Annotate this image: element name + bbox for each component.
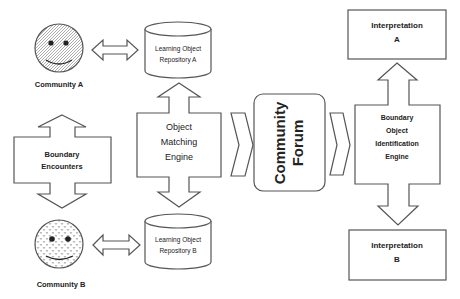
- eye-icon: [63, 40, 68, 45]
- interpretation-b-line2: B: [394, 255, 400, 264]
- boie-line3: Identification: [375, 140, 419, 147]
- interpretation-a-line2: A: [394, 35, 400, 44]
- chevron-right-icon: [231, 113, 253, 176]
- smiley-face-icon: [35, 24, 83, 72]
- ome-line1: Object: [166, 122, 193, 132]
- boundary-object-identification-engine: Boundary Object Identification Engine: [355, 63, 440, 225]
- repository-a: Learning Object Repository A: [145, 22, 211, 78]
- interpretation-a: Interpretation A: [348, 10, 446, 59]
- boie-line4: Engine: [385, 153, 408, 161]
- community-b: Community B: [35, 220, 86, 289]
- smiley-face-icon: [35, 220, 83, 268]
- chevron-right-icon: [330, 113, 350, 175]
- community-forum-line2: Forum: [289, 120, 306, 167]
- interpretation-a-line1: Interpretation: [371, 21, 423, 30]
- community-forum-line1: Community: [271, 101, 288, 184]
- eye-icon: [49, 236, 55, 242]
- diagram-canvas: Community A Learning Object Repository A…: [0, 0, 460, 299]
- double-arrow-b: [93, 235, 140, 255]
- ome-line3: Engine: [165, 152, 193, 162]
- community-a-label: Community A: [35, 80, 84, 89]
- repository-b: Learning Object Repository B: [145, 214, 211, 269]
- interpretation-b-line1: Interpretation: [371, 241, 423, 250]
- eye-icon: [48, 40, 53, 45]
- repository-a-line1: Learning Object: [155, 45, 201, 53]
- boundary-encounters-line2: Encounters: [41, 162, 82, 171]
- community-a: Community A: [35, 24, 84, 89]
- object-matching-engine: Object Matching Engine: [137, 83, 221, 207]
- boie-line2: Object: [386, 127, 408, 135]
- double-arrow-a: [92, 40, 138, 60]
- boundary-encounters-line1: Boundary: [44, 150, 80, 159]
- interpretation-b: Interpretation B: [349, 230, 446, 280]
- boundary-encounters: Boundary Encounters: [14, 115, 111, 208]
- eye-icon: [65, 236, 71, 242]
- repository-b-line1: Learning Object: [155, 236, 201, 244]
- community-b-label: Community B: [37, 280, 86, 289]
- community-forum: Community Forum: [254, 94, 325, 191]
- boie-line1: Boundary: [381, 114, 414, 122]
- repository-b-line2: Repository B: [159, 247, 196, 255]
- repository-a-line2: Repository A: [160, 56, 198, 64]
- ome-line2: Matching: [161, 137, 198, 147]
